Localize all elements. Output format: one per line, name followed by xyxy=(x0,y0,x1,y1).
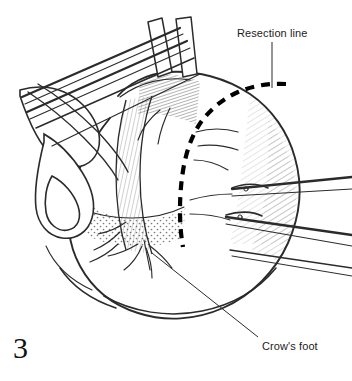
figure-container: Resection line Crow's foot 3 xyxy=(0,0,352,381)
leader-crows-foot xyxy=(152,253,258,337)
short-gastric-2 xyxy=(90,244,118,262)
vessel-group xyxy=(90,108,238,278)
duodenum-inner xyxy=(46,246,92,290)
gastric-branch-upper-3 xyxy=(194,160,228,170)
retractor-blade-right xyxy=(176,17,197,77)
label-resection-line: Resection line xyxy=(237,27,308,39)
gastric-branch-right-1 xyxy=(190,194,232,200)
antrum-lower-edge xyxy=(104,268,276,314)
gastric-branch-right-2 xyxy=(190,214,230,220)
label-crows-foot: Crow's foot xyxy=(262,340,318,352)
gastric-branch-upper-2 xyxy=(198,145,238,150)
figure-number: 3 xyxy=(13,333,28,363)
crows-foot-branch-1 xyxy=(150,246,172,268)
surgical-illustration xyxy=(0,0,352,381)
gastric-branch-upper-1 xyxy=(196,129,238,132)
